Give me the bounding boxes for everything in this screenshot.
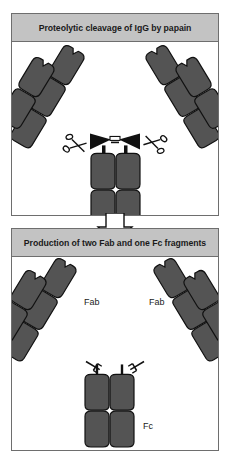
fab-label-right: Fab bbox=[149, 297, 165, 307]
scissors-icon-left bbox=[61, 132, 88, 157]
panel-top-body bbox=[12, 42, 218, 215]
right-fab-arm bbox=[144, 44, 218, 150]
left-fab-arm bbox=[12, 44, 86, 150]
panel-bottom-title: Production of two Fab and one Fc fragmen… bbox=[12, 229, 218, 257]
figure-canvas: Proteolytic cleavage of IgG by papain bbox=[0, 0, 230, 476]
panel-proteolytic-cleavage: Proteolytic cleavage of IgG by papain bbox=[11, 13, 219, 216]
fab-fragment-right bbox=[128, 257, 218, 373]
fc-label: Fc bbox=[143, 421, 154, 431]
fab-label-left: Fab bbox=[84, 297, 100, 307]
panel-fragments: Production of two Fab and one Fc fragmen… bbox=[11, 228, 219, 451]
fab-fragment-left bbox=[12, 257, 102, 373]
panel-top-title: Proteolytic cleavage of IgG by papain bbox=[12, 14, 218, 42]
fc-fragment bbox=[85, 364, 134, 447]
scissors-icon-right bbox=[142, 131, 169, 156]
fc-stem bbox=[91, 153, 140, 215]
igg-antibody-diagram bbox=[12, 42, 218, 215]
fragments-diagram: Fab Fab bbox=[12, 257, 218, 450]
panel-bottom-body: Fab Fab bbox=[12, 257, 218, 450]
hinge-region bbox=[90, 133, 140, 154]
